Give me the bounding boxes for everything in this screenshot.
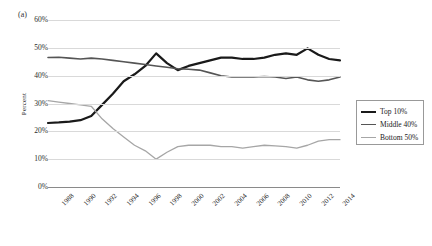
legend-label: Bottom 50% [380, 133, 418, 142]
gridline [48, 48, 340, 49]
chart-figure: (a) Percent 60%50%40%30%20%10%0% 1988199… [0, 0, 432, 246]
chart-legend: Top 10%Middle 40%Bottom 50% [356, 100, 424, 145]
legend-item[interactable]: Bottom 50% [361, 131, 420, 144]
series-line [48, 48, 340, 123]
legend-swatch-icon [361, 124, 376, 125]
y-tick-label: 20% [22, 127, 48, 135]
y-tick-label: 10% [22, 155, 48, 163]
series-line [48, 57, 340, 81]
x-tick-label: 1996 [147, 192, 163, 208]
x-tick-label: 2006 [255, 192, 271, 208]
legend-swatch-icon [361, 137, 376, 138]
x-tick-label: 2012 [320, 192, 336, 208]
x-tick-label: 2014 [341, 192, 357, 208]
x-tick-label: 1990 [82, 192, 98, 208]
legend-item[interactable]: Top 10% [361, 105, 420, 118]
y-tick-label: 0% [22, 183, 48, 191]
x-tick-label: 2010 [298, 192, 314, 208]
x-tick-label: 1998 [168, 192, 184, 208]
y-tick-label: 30% [22, 100, 48, 108]
x-tick-label: 1992 [103, 192, 119, 208]
x-tick-label: 1988 [60, 192, 76, 208]
gridline [48, 131, 340, 132]
y-tick-label: 50% [22, 44, 48, 52]
x-tick-label: 2004 [233, 192, 249, 208]
gridline [48, 159, 340, 160]
legend-label: Top 10% [380, 107, 407, 116]
gridline [48, 104, 340, 105]
x-tick-label: 2000 [190, 192, 206, 208]
x-tick-label: 1994 [125, 192, 141, 208]
y-axis-tick-labels: 60%50%40%30%20%10%0% [22, 0, 48, 246]
y-tick-label: 60% [22, 16, 48, 24]
gridline [48, 76, 340, 77]
gridline [48, 20, 340, 21]
legend-label: Middle 40% [380, 120, 417, 129]
plot-area [48, 20, 340, 187]
x-tick-label: 2008 [276, 192, 292, 208]
y-tick-label: 40% [22, 72, 48, 80]
x-axis-tick-labels: 1988199019921994199619982000200220042006… [48, 188, 340, 246]
series-line [48, 101, 340, 159]
x-tick-label: 2002 [212, 192, 228, 208]
legend-item[interactable]: Middle 40% [361, 118, 420, 131]
legend-swatch-icon [361, 111, 376, 113]
